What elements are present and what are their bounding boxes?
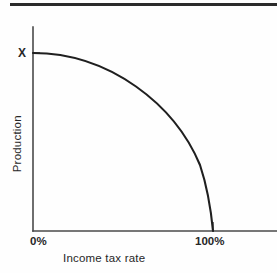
laffer-style-production-chart: X 0% 100% Income tax rate Production [0,0,277,273]
peak-marker-label: X [18,47,26,59]
production-curve [33,53,213,231]
x-tick-label-max: 100% [195,236,224,248]
x-axis-title: Income tax rate [63,253,145,265]
plot-area [0,0,277,273]
x-tick-label-min: 0% [30,236,47,248]
y-axis-title: Production [12,108,24,180]
